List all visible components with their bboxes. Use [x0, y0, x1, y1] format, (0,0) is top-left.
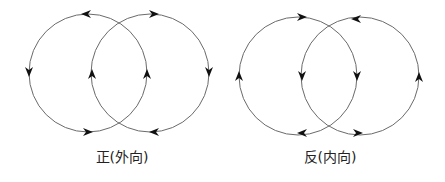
arrow-left-icon [351, 15, 361, 23]
arrow-right-icon [353, 129, 363, 137]
arrow-down-icon [298, 71, 306, 81]
arrow-up-icon [88, 69, 96, 79]
outward-diagram [25, 10, 213, 136]
inward-label: 反(内向) [270, 146, 390, 166]
right-circle [91, 14, 209, 132]
inward-diagram [235, 13, 423, 137]
arrow-left-icon [297, 129, 307, 137]
left-circle [239, 17, 357, 135]
left-circle [29, 14, 147, 132]
outward-label: 正(外向) [62, 146, 182, 166]
right-circle [301, 17, 419, 135]
